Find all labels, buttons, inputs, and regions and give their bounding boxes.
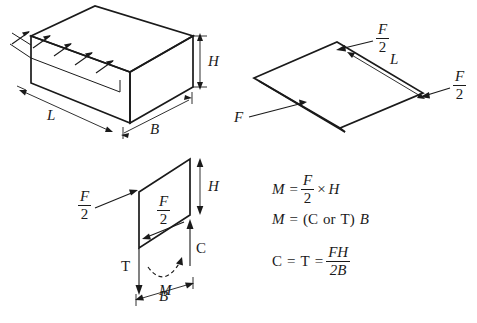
force-half-fraction: F 2 [301, 173, 314, 207]
equation-couple-force-value: C = T = FH 2B [272, 245, 350, 279]
plan-view-geometry [249, 41, 450, 132]
dimension-height-block [193, 33, 207, 90]
fbd-moment-arc [148, 257, 183, 277]
block-breadth-label: B [150, 122, 159, 137]
block-3d-geometry [10, 6, 207, 139]
shear-arrow [96, 60, 114, 73]
block-length-label: L [47, 108, 55, 123]
dimension-length-block [17, 86, 113, 132]
plan-force-top-arrow [336, 41, 373, 52]
free-body-geometry [95, 158, 203, 306]
dimension-length-plan [347, 52, 425, 99]
dimension-height-fbd [197, 158, 204, 215]
fbd-force-inner-label: F 2 [157, 194, 170, 228]
fbd-tension-label: T [121, 259, 130, 274]
plan-force-bottom-arrow [249, 100, 307, 118]
equation-moment-from-couple: M = ( C or T ) B [272, 211, 369, 228]
fbd-force-left-arrow [95, 190, 138, 209]
fbd-breadth-label: B [159, 289, 168, 304]
fbd-compression-arrow [187, 219, 194, 266]
fbd-tension-arrow [136, 248, 143, 295]
block-right-face [130, 36, 193, 123]
fbd-force-left-label: F 2 [78, 189, 91, 223]
plan-force-bottom-label: F [234, 110, 243, 125]
fh-over-2b-fraction: FH 2B [326, 245, 350, 279]
plan-length-label: L [390, 52, 398, 67]
fbd-compression-label: C [196, 241, 206, 256]
shear-arrow [12, 31, 30, 44]
plan-force-top-label: F 2 [376, 22, 389, 56]
plan-inner-edge [259, 81, 345, 132]
block-height-label: H [208, 54, 219, 69]
plan-force-right-label: F 2 [453, 69, 466, 103]
engineering-figure: H L B F 2 F 2 F L F 2 F 2 H T C M B M [0, 0, 477, 323]
fbd-height-label: H [208, 179, 219, 194]
shear-arrow [75, 52, 93, 65]
block-front-face [31, 36, 130, 123]
equation-moment-from-force: M = F 2 × H [272, 173, 339, 207]
figure-linework [0, 0, 477, 323]
